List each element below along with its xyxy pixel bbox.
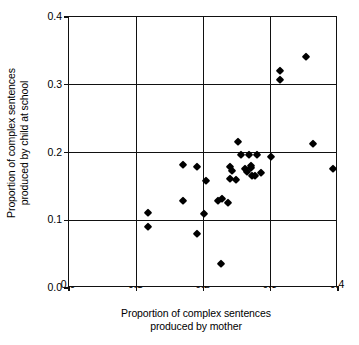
y-axis-title-line-2: produced by child at school	[18, 13, 31, 273]
y-tick-label-0.4: 0.4	[38, 10, 62, 22]
data-point	[309, 139, 318, 148]
y-gridline	[69, 152, 336, 153]
x-axis-tick	[337, 286, 338, 291]
data-point	[178, 160, 187, 169]
y-axis-title-container: Proportion of complex sentences produced…	[0, 0, 36, 300]
y-gridline	[69, 220, 336, 221]
data-point	[144, 222, 153, 231]
data-point	[192, 163, 201, 172]
data-point	[199, 210, 208, 219]
scatter-plot-figure: Proportion of complex sentences produced…	[0, 0, 359, 345]
y-tick-label-0.1: 0.1	[38, 213, 62, 225]
data-point	[276, 66, 285, 75]
y-axis-tick	[64, 220, 69, 221]
data-point	[224, 198, 233, 207]
data-point	[216, 260, 225, 269]
data-point	[301, 52, 310, 61]
x-axis-tick	[136, 286, 137, 291]
y-axis-title: Proportion of complex sentences produced…	[5, 13, 31, 273]
y-axis-tick	[64, 84, 69, 85]
x-axis-tick	[270, 286, 271, 291]
y-axis-tick	[64, 16, 69, 17]
data-point	[329, 165, 338, 174]
data-point	[267, 152, 276, 161]
y-axis-tick	[64, 152, 69, 153]
y-tick-label-0.3: 0.3	[38, 78, 62, 90]
x-axis-title-line-2: produced by mother	[46, 320, 346, 333]
data-point	[234, 137, 243, 146]
data-point	[144, 208, 153, 217]
data-point	[232, 176, 241, 185]
y-axis-title-line-1: Proportion of complex sentences	[5, 68, 17, 218]
data-point	[178, 197, 187, 206]
data-point	[192, 230, 201, 239]
y-tick-label-0.2: 0.2	[38, 146, 62, 158]
y-axis-tick	[64, 287, 69, 288]
x-axis-title: Proportion of complex sentences produced…	[46, 307, 346, 333]
x-axis-title-line-1: Proportion of complex sentences	[121, 307, 271, 319]
y-gridline	[69, 84, 336, 85]
y-tick-label-0.0: 0.0	[38, 281, 62, 293]
x-axis-tick	[203, 286, 204, 291]
plot-area	[68, 16, 337, 287]
